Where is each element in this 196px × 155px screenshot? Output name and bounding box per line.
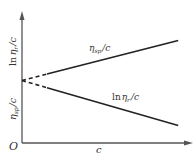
y-axis-label-upper: lnηr/c	[7, 37, 19, 66]
series-label-sp: ηsp/c	[89, 43, 110, 55]
subscript-sp: sp	[94, 47, 101, 55]
per-c: /c	[7, 37, 18, 47]
x-axis-label: c	[96, 144, 102, 155]
ln-prefix: ln	[112, 92, 121, 102]
ln-prefix: ln	[7, 57, 18, 66]
y-axis-label-lower: ηsp/c	[7, 97, 20, 120]
x-axis-arrow-icon	[184, 141, 193, 146]
series-0-line	[47, 41, 178, 75]
subscript-sp: sp	[12, 107, 20, 114]
chart-svg: O c lnηr/c ηsp/c ηsp/c lnηr/c	[0, 0, 196, 155]
y-axis-arrow-icon	[20, 11, 25, 20]
per-c: /c	[7, 97, 18, 107]
series-0-extrapolation-dashed	[22, 74, 47, 80]
series-1-extrapolation-dashed	[22, 81, 47, 88]
per-c: /c	[101, 43, 110, 53]
series-label-r: lnηr/c	[112, 92, 139, 103]
per-c: /c	[130, 92, 139, 102]
origin-label: O	[9, 140, 18, 153]
